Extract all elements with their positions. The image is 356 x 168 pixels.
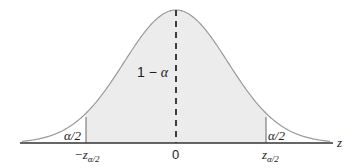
origin-label: 0 — [172, 147, 179, 162]
right-tail-label: α/2 — [268, 128, 285, 143]
left-critical-label: −zα/2 — [74, 147, 100, 164]
center-area-label: 1 − α — [137, 64, 169, 80]
axis-variable-label: z — [336, 135, 342, 150]
left-tail-label: α/2 — [64, 128, 81, 143]
right-critical-label: zα/2 — [261, 147, 279, 164]
normal-distribution-diagram: 1 − α α/2 α/2 −zα/2 0 zα/2 z — [0, 0, 356, 168]
